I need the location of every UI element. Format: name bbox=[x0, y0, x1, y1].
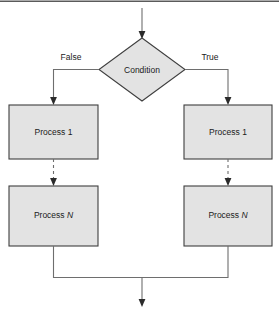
exit-arrow bbox=[139, 278, 146, 308]
label-suffix: 1 bbox=[242, 127, 247, 137]
true-branch-elbow bbox=[185, 70, 231, 106]
label-prefix: Process bbox=[208, 210, 239, 220]
label-suffix: N bbox=[67, 210, 74, 220]
label-prefix: Process bbox=[35, 127, 66, 137]
flowchart-diagram: Condition False True Process 1 Process 1 bbox=[0, 0, 279, 315]
false-branch-label: False bbox=[61, 52, 82, 62]
label-prefix: Process bbox=[34, 210, 65, 220]
label-suffix: N bbox=[241, 210, 248, 220]
process-box-true-first-label: Process 1 bbox=[209, 127, 247, 137]
false-ellipsis-link bbox=[50, 159, 57, 186]
false-merge-elbow bbox=[54, 246, 143, 278]
process-box-false-first-label: Process 1 bbox=[35, 127, 73, 137]
true-branch-label: True bbox=[201, 52, 218, 62]
true-merge-elbow bbox=[142, 246, 228, 278]
label-prefix: Process bbox=[209, 127, 240, 137]
label-suffix: 1 bbox=[68, 127, 73, 137]
entry-arrow bbox=[139, 8, 146, 39]
decision-label: Condition bbox=[124, 65, 160, 75]
flowchart-canvas: Condition False True Process 1 Process 1 bbox=[0, 0, 279, 315]
true-ellipsis-link bbox=[225, 159, 232, 186]
false-branch-elbow bbox=[50, 70, 99, 106]
process-box-true-last-label: Process N bbox=[208, 210, 248, 220]
process-box-false-last-label: Process N bbox=[34, 210, 74, 220]
